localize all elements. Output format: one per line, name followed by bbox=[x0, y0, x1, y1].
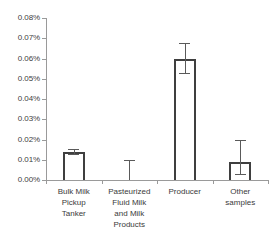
x-tick-mark bbox=[268, 180, 269, 184]
y-tick-label-text: 0.00% bbox=[18, 175, 40, 184]
y-tick-label-text: 0.02% bbox=[18, 135, 40, 144]
y-tick-label-text: 0.08% bbox=[18, 13, 40, 22]
x-tick-mark bbox=[46, 180, 47, 184]
bar-chart: 0.08%0.07%0.06%0.05%0.04%0.03%0.02%0.01%… bbox=[0, 0, 276, 234]
x-tick-mark bbox=[157, 180, 158, 184]
x-tick-mark bbox=[213, 180, 214, 184]
category-label: Other samples bbox=[213, 186, 269, 208]
error-bar-cap bbox=[179, 73, 190, 74]
error-bar-cap bbox=[124, 160, 135, 161]
error-bar-cap bbox=[235, 140, 246, 141]
error-bar-line bbox=[129, 160, 130, 180]
error-bar-cap bbox=[235, 174, 246, 175]
y-tick-label-text: 0.01% bbox=[18, 155, 40, 164]
error-bar-cap bbox=[179, 43, 190, 44]
category-label: Pasteurized Fluid Milk and Milk Products bbox=[102, 186, 158, 230]
category-label: Producer bbox=[157, 186, 213, 197]
y-tick-label-text: 0.06% bbox=[18, 54, 40, 63]
error-bar-line bbox=[185, 43, 186, 72]
y-tick-label-text: 0.04% bbox=[18, 94, 40, 103]
y-tick-label-text: 0.03% bbox=[18, 114, 40, 123]
error-bar-line bbox=[240, 140, 241, 174]
error-bar-cap bbox=[68, 149, 79, 150]
y-tick-label-text: 0.05% bbox=[18, 74, 40, 83]
category-label: Bulk Milk Pickup Tanker bbox=[46, 186, 102, 219]
x-tick-mark bbox=[102, 180, 103, 184]
bar bbox=[174, 59, 196, 181]
y-tick-label-text: 0.07% bbox=[18, 33, 40, 42]
error-bar-cap bbox=[68, 154, 79, 155]
bar bbox=[63, 152, 85, 180]
